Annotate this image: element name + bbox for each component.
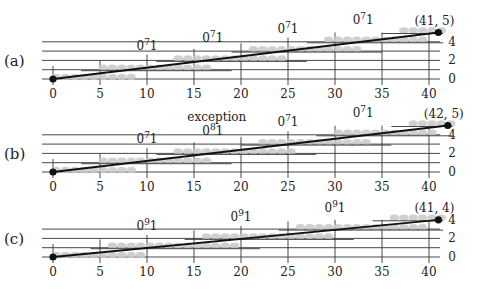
digital-point (333, 139, 342, 145)
x-tick-label: 30 (327, 180, 342, 194)
digital-point (409, 120, 418, 126)
digital-point (409, 215, 418, 221)
x-tick-label: 35 (374, 87, 389, 101)
end-point (435, 29, 442, 36)
digital-point (211, 243, 220, 249)
digital-point (98, 167, 107, 173)
panel-b: 0510152025303540024(42, 5)(b)07108107107… (4, 104, 464, 194)
exception-annotation: exception (187, 110, 246, 124)
run-base: 0 (136, 39, 144, 53)
run-length-label: 071 (353, 104, 374, 120)
x-tick-label: 0 (49, 265, 57, 279)
digital-point (399, 215, 408, 221)
digital-point (202, 233, 211, 239)
run-tail: 1 (216, 124, 224, 138)
run-length-label: 071 (353, 11, 374, 27)
digital-point (268, 148, 277, 154)
digital-point (268, 139, 277, 145)
digital-point (183, 148, 192, 154)
digital-point (136, 252, 145, 258)
x-tick-label: 5 (96, 265, 104, 279)
x-tick-label: 0 (49, 180, 57, 194)
digital-point (258, 55, 267, 61)
digital-point (352, 46, 361, 52)
endpoint-label: (41, 4) (414, 201, 454, 215)
y-tick-label: 4 (448, 128, 456, 142)
run-base: 0 (353, 13, 361, 27)
x-tick-label: 20 (233, 265, 248, 279)
digital-point (277, 148, 286, 154)
run-tail: 1 (216, 31, 224, 45)
digital-point (174, 65, 183, 71)
y-tick-label: 2 (448, 146, 456, 160)
x-tick-label: 25 (280, 87, 295, 101)
run-tail: 1 (291, 22, 299, 36)
digital-point (296, 224, 305, 230)
run-length-label: 081 (202, 122, 223, 138)
panel-label: (a) (4, 52, 25, 70)
digital-point (108, 252, 117, 258)
end-point (435, 216, 442, 223)
x-tick-label: 15 (186, 87, 201, 101)
digital-point (202, 65, 211, 71)
digital-point (127, 167, 136, 173)
y-tick-label: 4 (448, 35, 456, 49)
digital-point (117, 74, 126, 80)
digital-point (418, 130, 427, 136)
run-tail: 1 (291, 115, 299, 129)
x-tick-label: 25 (280, 180, 295, 194)
digital-point (127, 252, 136, 258)
x-tick-label: 35 (374, 265, 389, 279)
digital-line-diagram: 0510152025303540024(41, 5)(a)07107107107… (0, 0, 477, 292)
digital-point (192, 148, 201, 154)
x-tick-label: 35 (374, 180, 389, 194)
start-point (49, 168, 56, 175)
digital-point (315, 233, 324, 239)
digital-point (108, 65, 117, 71)
digital-point (333, 46, 342, 52)
digital-point (286, 148, 295, 154)
digital-point (117, 252, 126, 258)
digital-point (258, 148, 267, 154)
digital-point (108, 74, 117, 80)
digital-point (409, 27, 418, 33)
x-tick-label: 30 (327, 87, 342, 101)
digital-point (98, 65, 107, 71)
digital-point (277, 55, 286, 61)
digital-point (183, 158, 192, 164)
digital-point (221, 243, 230, 249)
run-length-label: 071 (277, 20, 298, 36)
x-tick-label: 10 (139, 265, 154, 279)
digital-point (362, 139, 371, 145)
x-tick-label: 40 (421, 180, 436, 194)
digital-point (98, 158, 107, 164)
run-tail: 1 (244, 210, 252, 224)
panel-label: (b) (4, 145, 25, 163)
digital-point (211, 233, 220, 239)
x-tick-label: 40 (421, 87, 436, 101)
digital-point (343, 37, 352, 43)
x-tick-label: 5 (96, 180, 104, 194)
digital-point (202, 243, 211, 249)
y-tick-label: 0 (448, 72, 456, 86)
digital-point (343, 46, 352, 52)
continuous-line (53, 33, 438, 80)
digital-point (202, 158, 211, 164)
digital-point (418, 27, 427, 33)
y-tick-label: 4 (448, 213, 456, 227)
x-tick-label: 0 (49, 87, 57, 101)
y-tick-label: 2 (448, 231, 456, 245)
x-tick-label: 15 (186, 180, 201, 194)
digital-point (409, 224, 418, 230)
digital-point (258, 139, 267, 145)
digital-point (258, 46, 267, 52)
x-tick-label: 5 (96, 87, 104, 101)
run-tail: 1 (150, 132, 158, 146)
run-base: 0 (230, 210, 238, 224)
start-point (49, 253, 56, 260)
panel-a: 0510152025303540024(41, 5)(a)07107107107… (4, 11, 456, 101)
x-tick-label: 20 (233, 87, 248, 101)
digital-point (427, 120, 436, 126)
digital-point (183, 55, 192, 61)
x-tick-label: 10 (139, 87, 154, 101)
